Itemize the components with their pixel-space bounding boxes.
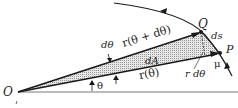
label-theta: θ [97,81,103,91]
label-P: P [226,44,233,55]
label-dA: dA [145,56,159,66]
label-Q: Q [198,18,208,30]
point-P [218,51,222,55]
label-r-dtheta: r dθ [185,69,205,79]
label-mu: μ [214,59,221,69]
angle-arrow-icon [113,75,119,80]
polar-area-diagram: O Q P ds dθ r(θ + dθ) dA r(θ) r dθ μ θ [0,0,238,108]
theta-arrow-icon [89,80,95,85]
label-dtheta: dθ [101,40,113,50]
label-ds: ds [211,31,223,41]
area-element-shading [18,32,220,92]
label-origin: O [3,86,13,98]
label-r-theta: r(θ) [138,67,160,81]
origin-tick [16,101,17,104]
